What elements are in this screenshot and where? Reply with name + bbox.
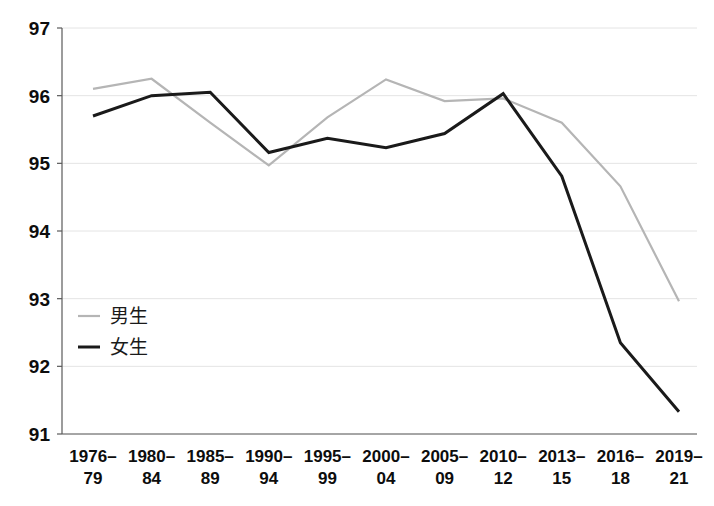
chart-canvas: 91929394959697 1976–791980–841985–891990…	[0, 0, 714, 506]
chart-background	[0, 0, 714, 506]
y-tick-label: 97	[29, 18, 50, 39]
x-tick-label: 1976–	[69, 447, 116, 466]
x-tick-label-continued: 21	[670, 469, 689, 488]
x-tick-label-continued: 18	[611, 469, 630, 488]
legend-label-男生: 男生	[110, 305, 148, 327]
x-tick-label: 1995–	[304, 447, 351, 466]
x-tick-label: 2005–	[421, 447, 468, 466]
x-tick-label: 2016–	[597, 447, 644, 466]
x-tick-label: 2010–	[480, 447, 527, 466]
x-tick-label-continued: 79	[84, 469, 103, 488]
y-tick-label: 96	[29, 86, 50, 107]
x-tick-label-continued: 84	[142, 469, 161, 488]
legend-label-女生: 女生	[110, 336, 148, 358]
x-tick-label: 1980–	[128, 447, 175, 466]
y-tick-label: 92	[29, 356, 50, 377]
x-tick-label-continued: 89	[201, 469, 220, 488]
x-tick-label-continued: 94	[259, 469, 278, 488]
x-tick-label: 2013–	[538, 447, 585, 466]
x-tick-label: 2019–	[655, 447, 702, 466]
x-tick-label-continued: 99	[318, 469, 337, 488]
y-tick-label: 93	[29, 289, 50, 310]
x-tick-label-continued: 12	[494, 469, 513, 488]
x-tick-label: 1985–	[187, 447, 234, 466]
line-chart: 91929394959697 1976–791980–841985–891990…	[0, 0, 714, 506]
y-tick-label: 94	[29, 221, 51, 242]
x-tick-label: 2000–	[362, 447, 409, 466]
x-tick-label-continued: 15	[552, 469, 571, 488]
x-tick-label-continued: 04	[377, 469, 396, 488]
x-tick-label: 1990–	[245, 447, 292, 466]
x-tick-label-continued: 09	[435, 469, 454, 488]
y-tick-label: 95	[29, 153, 51, 174]
y-tick-label: 91	[29, 424, 51, 445]
